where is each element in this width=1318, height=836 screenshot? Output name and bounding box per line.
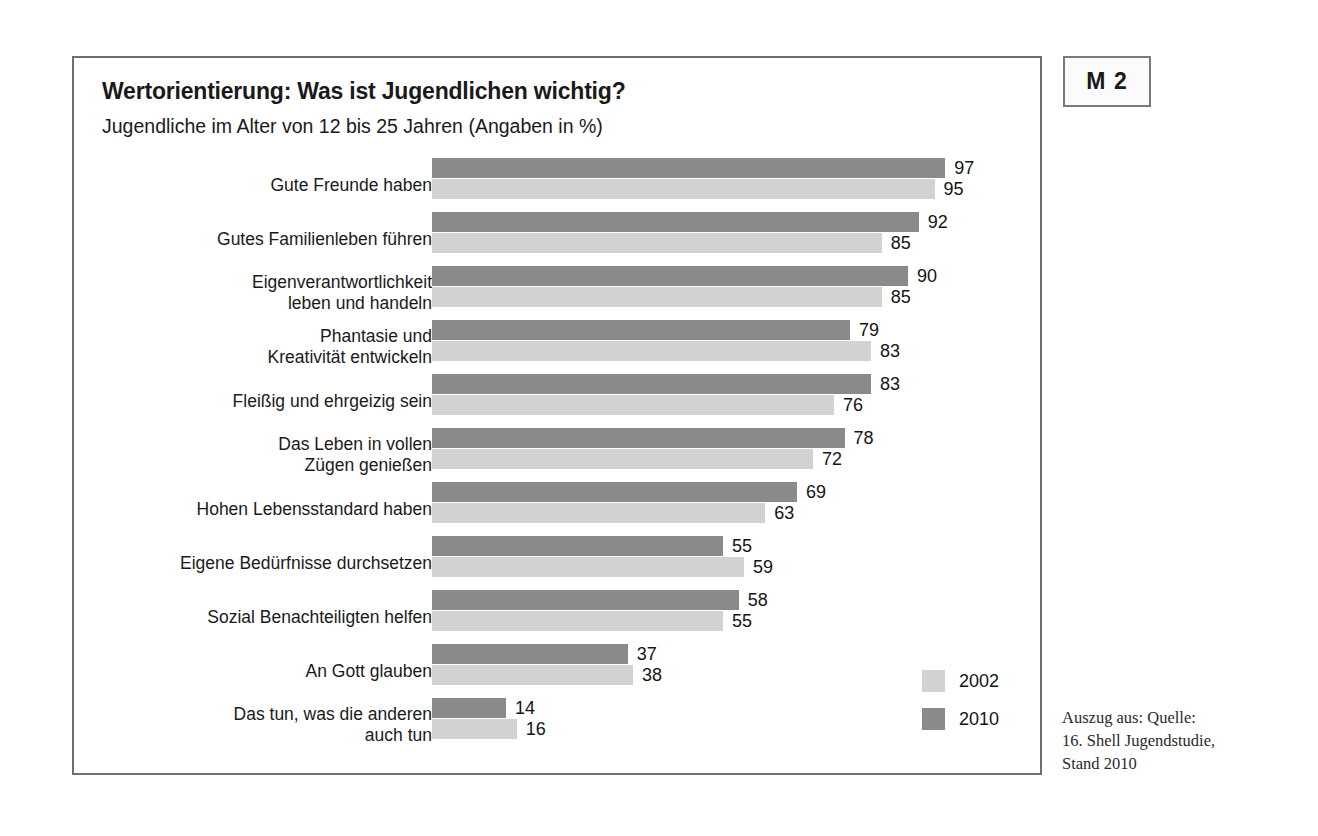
legend-item-2002: 2002 xyxy=(922,670,999,692)
bar-rect-2002 xyxy=(432,179,935,199)
bar-value-label: 72 xyxy=(822,449,842,470)
bar-rect-2002 xyxy=(432,665,633,685)
bar-2002: 95 xyxy=(432,179,1032,199)
legend-label: 2010 xyxy=(959,709,999,730)
bar-2010: 37 xyxy=(432,644,1032,664)
category-label: An Gott glauben xyxy=(306,661,432,682)
bar-rect-2010 xyxy=(432,698,506,718)
bar-rect-2002 xyxy=(432,341,871,361)
chart-row: Eigenverantwortlichkeit leben und handel… xyxy=(74,266,1044,320)
bar-rect-2002 xyxy=(432,719,517,739)
chart-row: Sozial Benachteiligten helfen5855 xyxy=(74,590,1044,644)
bar-rect-2010 xyxy=(432,320,850,340)
bar-value-label: 55 xyxy=(732,611,752,632)
bar-chart-plot-area: Gute Freunde haben9795Gutes Familienlebe… xyxy=(74,158,1044,758)
category-label: Das Leben in vollen Zügen genießen xyxy=(278,434,432,476)
bar-2010: 69 xyxy=(432,482,1032,502)
category-label: Phantasie und Kreativität entwickeln xyxy=(268,326,432,368)
bar-rect-2010 xyxy=(432,428,845,448)
legend-item-2010: 2010 xyxy=(922,708,999,730)
bar-value-label: 63 xyxy=(774,503,794,524)
bar-rect-2010 xyxy=(432,536,723,556)
bar-2010: 79 xyxy=(432,320,1032,340)
bar-value-label: 16 xyxy=(526,719,546,740)
bar-2002: 83 xyxy=(432,341,1032,361)
category-label: Eigenverantwortlichkeit leben und handel… xyxy=(252,272,432,314)
bar-2002: 63 xyxy=(432,503,1032,523)
material-badge: M 2 xyxy=(1063,56,1151,107)
bar-value-label: 95 xyxy=(944,179,964,200)
bar-value-label: 38 xyxy=(642,665,662,686)
bar-2010: 97 xyxy=(432,158,1032,178)
bar-value-label: 90 xyxy=(917,266,937,287)
bar-rect-2002 xyxy=(432,287,882,307)
bar-value-label: 14 xyxy=(515,698,535,719)
bar-2002: 55 xyxy=(432,611,1032,631)
chart-title: Wertorientierung: Was ist Jugendlichen w… xyxy=(102,78,625,105)
bar-value-label: 92 xyxy=(928,212,948,233)
bar-value-label: 76 xyxy=(843,395,863,416)
bar-2010: 78 xyxy=(432,428,1032,448)
chart-row: Hohen Lebensstandard haben6963 xyxy=(74,482,1044,536)
bar-2010: 92 xyxy=(432,212,1032,232)
bar-value-label: 83 xyxy=(880,341,900,362)
source-note: Auszug aus: Quelle: 16. Shell Jugendstud… xyxy=(1062,706,1292,775)
chart-frame: Wertorientierung: Was ist Jugendlichen w… xyxy=(72,56,1042,775)
bar-rect-2010 xyxy=(432,590,739,610)
legend-swatch-icon xyxy=(922,670,945,692)
bar-2002: 85 xyxy=(432,233,1032,253)
material-badge-label: M 2 xyxy=(1086,68,1127,95)
bar-rect-2002 xyxy=(432,611,723,631)
chart-legend: 20022010 xyxy=(922,670,999,746)
bar-rect-2010 xyxy=(432,212,919,232)
category-label: Fleißig und ehrgeizig sein xyxy=(233,391,432,412)
bar-2010: 83 xyxy=(432,374,1032,394)
category-label: Sozial Benachteiligten helfen xyxy=(207,607,432,628)
bar-value-label: 59 xyxy=(753,557,773,578)
category-label: Eigene Bedürfnisse durchsetzen xyxy=(180,553,432,574)
chart-row: Das tun, was die anderen auch tun1416 xyxy=(74,698,1044,752)
bar-value-label: 55 xyxy=(732,536,752,557)
legend-swatch-icon xyxy=(922,708,945,730)
bar-2002: 72 xyxy=(432,449,1032,469)
bar-rect-2010 xyxy=(432,374,871,394)
chart-row: Gutes Familienleben führen9285 xyxy=(74,212,1044,266)
bar-value-label: 85 xyxy=(891,287,911,308)
chart-row: Gute Freunde haben9795 xyxy=(74,158,1044,212)
chart-row: An Gott glauben3738 xyxy=(74,644,1044,698)
bar-rect-2002 xyxy=(432,233,882,253)
bar-rect-2002 xyxy=(432,503,765,523)
category-label: Gute Freunde haben xyxy=(270,175,432,196)
bar-rect-2002 xyxy=(432,395,834,415)
bar-rect-2010 xyxy=(432,158,945,178)
bar-2010: 90 xyxy=(432,266,1032,286)
chart-row: Das Leben in vollen Zügen genießen7872 xyxy=(74,428,1044,482)
bar-2010: 55 xyxy=(432,536,1032,556)
bar-value-label: 79 xyxy=(859,320,879,341)
bar-value-label: 69 xyxy=(806,482,826,503)
bar-2002: 59 xyxy=(432,557,1032,577)
category-label: Gutes Familienleben führen xyxy=(217,229,432,250)
bar-value-label: 58 xyxy=(748,590,768,611)
category-label: Das tun, was die anderen auch tun xyxy=(234,704,432,746)
bar-rect-2010 xyxy=(432,482,797,502)
chart-row: Fleißig und ehrgeizig sein8376 xyxy=(74,374,1044,428)
bar-value-label: 85 xyxy=(891,233,911,254)
bar-2010: 58 xyxy=(432,590,1032,610)
chart-row: Eigene Bedürfnisse durchsetzen5559 xyxy=(74,536,1044,590)
bar-value-label: 97 xyxy=(954,158,974,179)
bar-rect-2010 xyxy=(432,266,908,286)
bar-rect-2002 xyxy=(432,449,813,469)
bar-2002: 85 xyxy=(432,287,1032,307)
legend-label: 2002 xyxy=(959,671,999,692)
bar-2002: 76 xyxy=(432,395,1032,415)
bar-rect-2010 xyxy=(432,644,628,664)
chart-subtitle: Jugendliche im Alter von 12 bis 25 Jahre… xyxy=(102,115,603,138)
bar-value-label: 78 xyxy=(854,428,874,449)
bar-rect-2002 xyxy=(432,557,744,577)
bar-value-label: 83 xyxy=(880,374,900,395)
category-label: Hohen Lebensstandard haben xyxy=(197,499,432,520)
chart-row: Phantasie und Kreativität entwickeln7983 xyxy=(74,320,1044,374)
bar-value-label: 37 xyxy=(637,644,657,665)
